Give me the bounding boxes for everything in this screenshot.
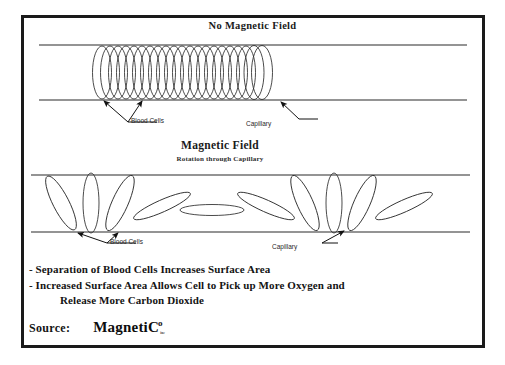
label-capillary-bottom: Capillary [272, 243, 297, 250]
source-logo-superscript: o [158, 318, 163, 328]
slide-page: No Magnetic Field Blood Cells Capillary … [0, 0, 505, 365]
source-label: Source: [29, 321, 70, 336]
panel-title-magnetic-field: Magnetic Field [0, 139, 440, 151]
source-row: Source: MagnetiCoinc [29, 318, 164, 336]
bullet-point-1: - Separation of Blood Cells Increases Su… [29, 263, 270, 275]
label-blood-cells-bottom: Blood Cells [110, 238, 143, 245]
bullet-point-2: - Increased Surface Area Allows Cell to … [29, 279, 345, 291]
label-capillary-top: Capillary [246, 120, 271, 127]
source-logo-main: MagnetiC [93, 319, 159, 335]
bullet-point-2-continuation: Release More Carbon Dioxide [60, 294, 204, 306]
source-logo-subscript: inc [160, 331, 164, 335]
label-blood-cells-top: Blood Cells [131, 117, 164, 124]
source-logo: MagnetiCoinc [93, 318, 163, 336]
panel-subtitle-rotation: Rotation through Capillary [0, 155, 440, 163]
panel-title-no-magnetic-field: No Magnetic Field [0, 20, 505, 31]
